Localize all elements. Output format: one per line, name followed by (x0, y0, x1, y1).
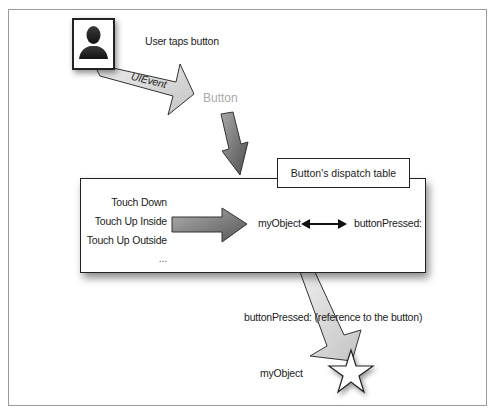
target-label: myObject (258, 217, 301, 229)
message-label: buttonPressed: (reference to the button) (244, 311, 422, 323)
action-label: buttonPressed: (354, 217, 422, 229)
receiver-label: myObject (260, 367, 303, 379)
table-arrows (0, 0, 495, 412)
double-arrow-icon (301, 219, 347, 229)
dispatch-arrow (172, 208, 247, 242)
